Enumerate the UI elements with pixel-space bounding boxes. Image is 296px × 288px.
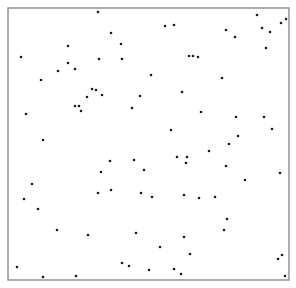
data-point	[40, 79, 43, 82]
data-point	[87, 234, 90, 237]
data-point	[67, 62, 70, 65]
data-point	[277, 258, 280, 261]
data-point	[225, 165, 228, 168]
data-point	[159, 246, 162, 249]
data-point	[56, 229, 59, 232]
data-point	[148, 269, 151, 272]
data-point	[101, 94, 104, 97]
data-point	[128, 265, 131, 268]
data-point	[95, 89, 98, 92]
data-point	[120, 43, 123, 46]
data-point	[173, 268, 176, 271]
data-point	[208, 150, 211, 153]
data-point	[100, 171, 103, 174]
data-point	[75, 275, 78, 278]
data-point	[180, 273, 183, 276]
data-point	[223, 229, 226, 232]
scatter-plot	[0, 0, 296, 288]
data-point	[109, 160, 112, 163]
data-point	[121, 262, 124, 265]
plot-frame	[8, 8, 289, 280]
data-point	[256, 14, 259, 17]
data-point	[151, 196, 154, 199]
data-point	[16, 266, 19, 269]
data-point	[170, 129, 173, 132]
data-point	[135, 232, 138, 235]
data-point	[97, 192, 100, 195]
data-point	[197, 56, 200, 59]
data-point	[200, 111, 203, 114]
data-point	[67, 45, 70, 48]
data-point	[181, 91, 184, 94]
data-point	[265, 47, 268, 50]
data-point	[183, 236, 186, 239]
data-point	[20, 56, 23, 59]
data-point	[280, 22, 283, 25]
data-point	[97, 11, 100, 14]
data-point	[192, 55, 195, 58]
data-point	[91, 88, 94, 91]
data-point	[186, 156, 189, 159]
data-point	[131, 107, 134, 110]
data-point	[189, 253, 192, 256]
data-point	[244, 179, 247, 182]
data-point	[263, 116, 266, 119]
data-points	[16, 11, 288, 279]
data-point	[226, 218, 229, 221]
data-point	[234, 36, 237, 39]
data-point	[74, 105, 77, 108]
data-point	[78, 105, 81, 108]
data-point	[110, 32, 113, 35]
data-point	[143, 169, 146, 172]
data-point	[139, 95, 142, 98]
data-point	[221, 77, 224, 80]
data-point	[176, 156, 179, 159]
data-point	[164, 25, 167, 28]
data-point	[183, 194, 186, 197]
data-point	[23, 198, 26, 201]
data-point	[42, 276, 45, 279]
data-point	[284, 275, 287, 278]
data-point	[188, 55, 191, 58]
data-point	[198, 197, 201, 200]
data-point	[150, 74, 153, 77]
data-point	[261, 27, 264, 30]
data-point	[37, 208, 40, 211]
data-point	[214, 196, 217, 199]
data-point	[225, 29, 228, 32]
data-point	[185, 162, 188, 165]
data-point	[98, 58, 101, 61]
data-point	[279, 172, 282, 175]
data-point	[140, 192, 143, 195]
data-point	[80, 110, 83, 113]
data-point	[133, 159, 136, 162]
data-point	[228, 143, 231, 146]
data-point	[57, 70, 60, 73]
data-point	[235, 116, 238, 119]
data-point	[269, 31, 272, 34]
data-point	[110, 189, 113, 192]
data-point	[86, 96, 89, 99]
data-point	[42, 139, 45, 142]
data-point	[31, 183, 34, 186]
data-point	[121, 58, 124, 61]
data-point	[25, 113, 28, 116]
data-point	[281, 254, 284, 257]
data-point	[271, 128, 274, 131]
data-point	[173, 24, 176, 27]
data-point	[74, 68, 77, 71]
data-point	[285, 18, 288, 21]
data-point	[237, 135, 240, 138]
